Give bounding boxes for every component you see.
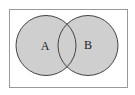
set-b-label: B [84, 38, 92, 52]
venn-diagram: A B [0, 0, 135, 95]
set-a-label: A [41, 39, 50, 53]
